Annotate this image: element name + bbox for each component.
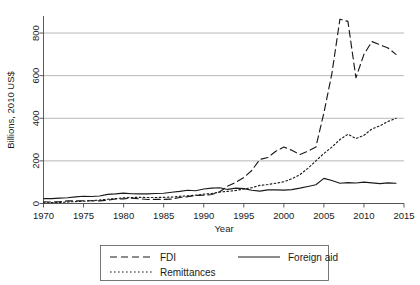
- x-tick-label-1980: 1980: [113, 210, 134, 221]
- x-tick-label-1990: 1990: [193, 210, 214, 221]
- y-tick-label-0: 0: [30, 201, 41, 206]
- legend-label-fdi: FDI: [160, 252, 176, 263]
- y-tick-label-600: 600: [30, 68, 41, 84]
- y-tick-label-200: 200: [30, 153, 41, 169]
- x-axis-title: Year: [214, 223, 233, 234]
- x-tick-label-1995: 1995: [233, 210, 254, 221]
- legend-group: FDIForeign aidRemittances: [110, 252, 338, 278]
- x-tick-label-1970: 1970: [33, 210, 54, 221]
- y-tick-label-800: 800: [30, 25, 41, 41]
- series-group: [44, 19, 396, 203]
- y-axis-title: Billions, 2010 US$: [5, 70, 16, 148]
- gridline-group: [44, 33, 405, 203]
- y-tick-group: 0200400600800: [30, 25, 44, 206]
- chart-svg: 0200400600800 19701975198019851990199520…: [0, 0, 420, 285]
- x-tick-label-2010: 2010: [353, 210, 374, 221]
- legend-label-remittances: Remittances: [160, 267, 216, 278]
- x-tick-label-1975: 1975: [73, 210, 94, 221]
- x-tick-label-1985: 1985: [153, 210, 174, 221]
- y-tick-label-400: 400: [30, 110, 41, 126]
- series-foreign-aid: [44, 178, 396, 198]
- chart-figure: 0200400600800 19701975198019851990199520…: [0, 0, 420, 285]
- series-fdi: [44, 19, 396, 202]
- x-tick-label-2005: 2005: [313, 210, 334, 221]
- x-tick-label-2000: 2000: [273, 210, 294, 221]
- legend-label-foreign-aid: Foreign aid: [288, 252, 338, 263]
- x-tick-label-2015: 2015: [393, 210, 414, 221]
- x-tick-group: 1970197519801985199019952000200520102015: [33, 204, 415, 221]
